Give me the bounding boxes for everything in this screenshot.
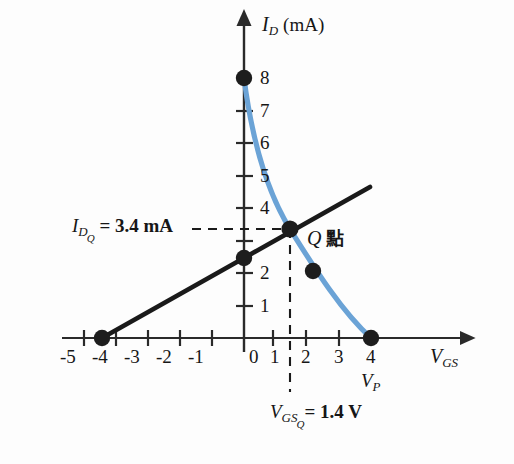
q-point-label: Q 點: [307, 228, 344, 248]
x-tick-label-neg4: -4: [92, 347, 108, 366]
data-point-vp: [363, 330, 379, 346]
vgsq-var: V: [270, 401, 282, 422]
y-tick-label-1: 1: [260, 296, 270, 315]
y-axis-title-var: I: [262, 13, 269, 35]
vp-var: V: [361, 370, 373, 391]
y-axis-title-unit: (mA): [283, 14, 324, 35]
y-tick-label-7: 7: [260, 101, 270, 120]
x-tick-label-neg5: -5: [60, 347, 76, 366]
vgsq-sub1: GS: [282, 410, 298, 425]
vgsq-equals: =: [304, 401, 315, 422]
y-axis-title: ID (mA): [262, 14, 324, 37]
load-line: [102, 187, 370, 338]
x-tick-label-2: 2: [301, 347, 311, 366]
x-tick-label-0: 0: [249, 347, 259, 366]
figure-root: ID (mA) VGS 8 7 6 5 4 2 1 -5 -4 -3 -2 -1…: [0, 0, 514, 464]
vgsq-value: 1.4 V: [320, 401, 362, 422]
x-tick-label-3: 3: [334, 347, 344, 366]
x-axis-title-var: V: [430, 345, 442, 367]
y-tick-label-6: 6: [260, 133, 270, 152]
data-point-q: [281, 220, 298, 237]
q-point-symbol: Q: [307, 227, 321, 249]
y-tick-label-2: 2: [260, 263, 270, 282]
y-tick-label-5: 5: [260, 166, 270, 185]
y-tick-label-8: 8: [260, 68, 270, 87]
x-axis-title-sub: GS: [442, 355, 458, 370]
x-axis-title: VGS: [430, 346, 458, 369]
x-tick-label-neg1: -1: [188, 347, 204, 366]
y-tick-label-4: 4: [260, 198, 270, 217]
y-axis-title-sub: D: [269, 23, 278, 38]
q-point-word: 點: [326, 228, 344, 249]
x-tick-label-4: 4: [366, 347, 376, 366]
vp-label: VP: [361, 371, 381, 393]
data-point-loadline-x-intercept: [94, 330, 110, 346]
x-tick-label-1: 1: [270, 347, 280, 366]
data-point-idss: [236, 70, 252, 86]
data-point-curve-mid: [305, 263, 321, 279]
x-tick-label-neg3: -3: [124, 347, 140, 366]
vp-sub: P: [373, 379, 381, 394]
vgsq-annotation: VGSQ= 1.4 V: [270, 402, 362, 430]
idq-sub2: Q: [87, 232, 95, 244]
idq-equals: =: [99, 215, 110, 236]
idq-value: 3.4 mA: [115, 215, 173, 236]
idq-annotation: IDQ = 3.4 mA: [72, 216, 173, 244]
data-point-loadline-y-intercept: [236, 250, 252, 266]
x-tick-label-neg2: -2: [156, 347, 172, 366]
